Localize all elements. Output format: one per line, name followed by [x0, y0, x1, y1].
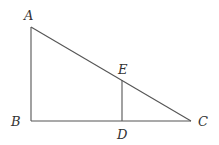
label-d: D [116, 127, 128, 142]
label-c: C [198, 114, 208, 129]
triangle-diagram: A B C D E [0, 0, 219, 145]
label-b: B [10, 114, 21, 129]
label-e: E [117, 62, 128, 77]
label-a: A [23, 8, 33, 23]
segment-ac [31, 27, 191, 121]
